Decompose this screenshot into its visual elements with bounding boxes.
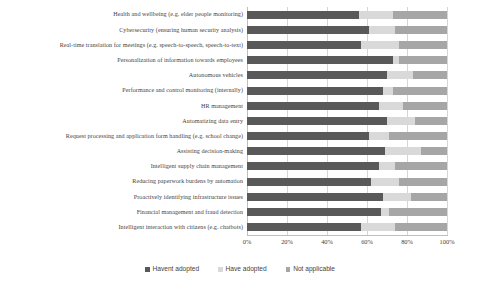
- x-tick-label: 20%: [281, 238, 293, 245]
- bar-row: Request processing and application form …: [0, 129, 480, 144]
- stacked-bar: [247, 193, 447, 201]
- legend-swatch-icon: [218, 267, 223, 272]
- category-label: Cybersecurity (ensuring human security a…: [0, 27, 247, 33]
- stacked-bar: [247, 26, 447, 34]
- category-label: Financial management and fraud detection: [0, 209, 247, 215]
- category-label: Personalization of information towards e…: [0, 57, 247, 63]
- bar-track: [247, 98, 447, 113]
- bar-segment-1: [385, 147, 421, 155]
- category-label: Intelligent supply chain management: [0, 163, 247, 169]
- bar-segment-2: [399, 56, 447, 64]
- x-tick-label: 0%: [243, 238, 252, 245]
- category-label: HR management: [0, 103, 247, 109]
- bar-track: [247, 7, 447, 22]
- stacked-bar: [247, 147, 447, 155]
- bar-track: [247, 113, 447, 128]
- plot-area: Health and wellbeing (e.g. elder people …: [0, 0, 480, 236]
- bar-row: Intelligent supply chain management: [0, 159, 480, 174]
- bar-segment-0: [247, 193, 383, 201]
- bar-segment-2: [399, 178, 447, 186]
- legend-label: Not applicable: [293, 266, 335, 273]
- bar-segment-1: [381, 208, 389, 216]
- bar-segment-2: [421, 147, 447, 155]
- legend-swatch-icon: [145, 267, 150, 272]
- bar-row: Assisting decision-making: [0, 144, 480, 159]
- stacked-bar: [247, 41, 447, 49]
- bar-segment-2: [413, 71, 447, 79]
- x-tick-label: 100%: [440, 238, 455, 245]
- bar-segment-1: [361, 223, 395, 231]
- bar-row: Automatizing data entry: [0, 113, 480, 128]
- category-label: Request processing and application form …: [0, 133, 247, 139]
- bar-segment-1: [379, 102, 403, 110]
- category-label: Intelligent interaction with citizens (e…: [0, 224, 247, 230]
- stacked-bar: [247, 178, 447, 186]
- x-tick-label: 60%: [361, 238, 373, 245]
- bar-segment-1: [369, 132, 389, 140]
- x-tick-label: 40%: [321, 238, 333, 245]
- bar-segment-2: [411, 193, 447, 201]
- bar-segment-0: [247, 102, 379, 110]
- bar-segment-0: [247, 223, 361, 231]
- bar-row: Proactively identifying infrastructure i…: [0, 189, 480, 204]
- stacked-bar: [247, 208, 447, 216]
- bar-segment-0: [247, 117, 387, 125]
- category-label: Assisting decision-making: [0, 148, 247, 154]
- category-label: Real-time translation for meetings (e.g.…: [0, 42, 247, 48]
- bar-track: [247, 220, 447, 235]
- bar-track: [247, 22, 447, 37]
- bar-row: Cybersecurity (ensuring human security a…: [0, 22, 480, 37]
- legend-swatch-icon: [286, 267, 291, 272]
- bar-track: [247, 204, 447, 219]
- bar-track: [247, 37, 447, 52]
- bar-segment-0: [247, 56, 393, 64]
- bar-segment-2: [389, 132, 447, 140]
- stacked-bar: [247, 11, 447, 19]
- legend-item[interactable]: Havent adopted: [145, 266, 199, 273]
- bar-segment-2: [403, 102, 447, 110]
- stacked-bar: [247, 162, 447, 170]
- bar-segment-1: [379, 162, 395, 170]
- bar-segment-1: [387, 71, 413, 79]
- stacked-bar: [247, 117, 447, 125]
- category-label: Autonomous vehicles: [0, 72, 247, 78]
- bar-segment-1: [361, 41, 399, 49]
- bar-track: [247, 129, 447, 144]
- x-axis-tick-labels: 0%20%40%60%80%100%: [247, 238, 447, 250]
- bar-segment-2: [415, 117, 447, 125]
- bar-segment-0: [247, 208, 381, 216]
- bar-track: [247, 53, 447, 68]
- bar-track: [247, 144, 447, 159]
- bar-segment-1: [359, 11, 393, 19]
- bar-segment-0: [247, 162, 379, 170]
- chart-legend: Havent adoptedHave adoptedNot applicable: [0, 266, 480, 273]
- bar-track: [247, 159, 447, 174]
- bar-row: Personalization of information towards e…: [0, 53, 480, 68]
- legend-item[interactable]: Have adopted: [218, 266, 267, 273]
- legend-label: Havent adopted: [153, 266, 200, 273]
- stacked-bar: [247, 56, 447, 64]
- category-label: Performance and control monitoring (inte…: [0, 87, 247, 93]
- bar-segment-1: [383, 193, 411, 201]
- bar-segment-1: [369, 26, 395, 34]
- bar-row: Autonomous vehicles: [0, 68, 480, 83]
- bar-segment-2: [389, 208, 447, 216]
- bar-segment-1: [371, 178, 399, 186]
- bar-segment-0: [247, 87, 383, 95]
- bar-segment-0: [247, 26, 369, 34]
- stacked-bar: [247, 102, 447, 110]
- bar-segment-2: [393, 87, 447, 95]
- bar-segment-2: [395, 223, 447, 231]
- x-tick-label: 80%: [401, 238, 413, 245]
- bar-segment-0: [247, 71, 387, 79]
- x-axis-line: [247, 235, 448, 236]
- stacked-bar: [247, 71, 447, 79]
- bar-segment-1: [387, 117, 415, 125]
- legend-item[interactable]: Not applicable: [286, 266, 335, 273]
- bar-row: Performance and control monitoring (inte…: [0, 83, 480, 98]
- category-label: Proactively identifying infrastructure i…: [0, 194, 247, 200]
- bar-segment-0: [247, 178, 371, 186]
- bar-row: Health and wellbeing (e.g. elder people …: [0, 7, 480, 22]
- bar-segment-0: [247, 132, 369, 140]
- bar-segment-2: [395, 162, 447, 170]
